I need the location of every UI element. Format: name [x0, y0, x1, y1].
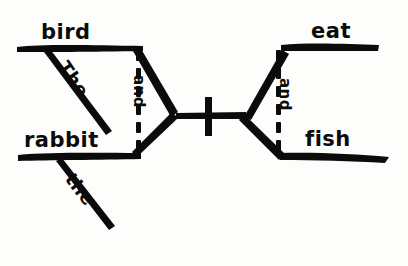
subject-predicate-divider-bar — [205, 97, 212, 136]
predicate-verb-lower-label: fish — [305, 129, 351, 150]
predicate-upper-baseline — [281, 43, 379, 51]
predicate-conjunction-label: and — [277, 78, 292, 111]
predicate-lower-baseline — [280, 153, 389, 163]
subject-noun-upper-label: bird — [41, 22, 91, 43]
subject-upper-baseline — [17, 45, 143, 52]
predicate-lower-connector — [239, 114, 285, 160]
sentence-diagram-canvas: bird rabbit The the and eat fish and — [0, 0, 408, 266]
predicate-verb-upper-label: eat — [311, 21, 351, 42]
subject-conjunction-label: and — [131, 75, 146, 108]
subject-noun-lower-label: rabbit — [24, 130, 99, 151]
subject-lower-baseline — [18, 153, 141, 161]
